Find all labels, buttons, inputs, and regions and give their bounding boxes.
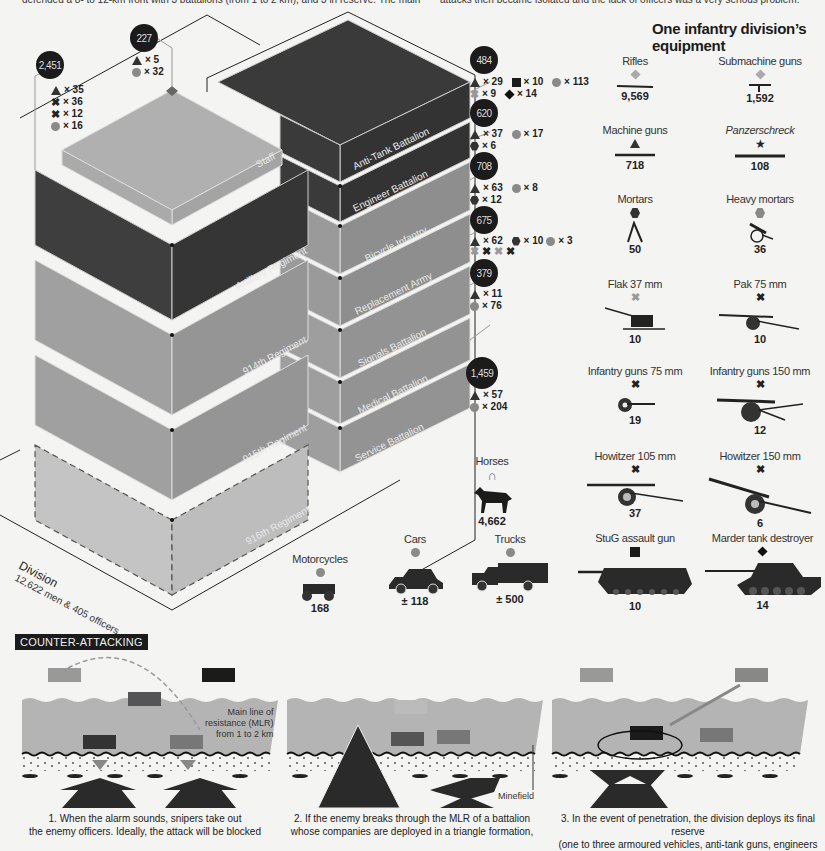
circle-icon xyxy=(51,122,60,131)
diamond-icon xyxy=(630,69,640,79)
caption-step-1: 1. When the alarm sounds, snipers take o… xyxy=(10,812,280,838)
equipment-cars: Cars ± 118 xyxy=(375,533,455,607)
circle-icon xyxy=(132,68,141,77)
triangle-icon xyxy=(51,86,61,95)
equipment-rifles: Rifles 9,569 xyxy=(580,55,690,102)
cross-icon: ✖ xyxy=(470,90,479,99)
equipment-howitzer-105: Howitzer 105 mm ✖ 37 xyxy=(580,450,690,519)
heavy-mortar-icon xyxy=(746,221,774,243)
caption-step-2: 2. If the enemy breaks through the MLR o… xyxy=(277,812,547,838)
motorcycle-icon xyxy=(297,580,343,602)
triangle-icon xyxy=(630,139,640,148)
badge-medical: 1,459 xyxy=(466,357,498,389)
equipment-trucks: Trucks ± 500 xyxy=(465,533,555,605)
infantry-gun-75-icon xyxy=(613,392,657,414)
star-icon: ★ xyxy=(705,139,815,149)
panzerschreck-icon xyxy=(733,152,787,160)
equipment-pak-75: Pak 75 mm ✖ 10 xyxy=(705,278,815,345)
equipment-stug: StuG assault gun 10 xyxy=(570,532,700,612)
badge-engineer: 620 xyxy=(470,99,498,127)
horse-icon xyxy=(470,485,514,515)
equipment-infantry-guns-150: Infantry guns 150 mm ✖ 12 xyxy=(705,365,815,436)
flak-gun-icon xyxy=(603,305,667,333)
square-icon xyxy=(630,547,640,557)
marder-icon xyxy=(703,559,823,599)
triangle-icon xyxy=(132,56,142,65)
howitzer-105-icon xyxy=(585,477,685,507)
diamond-icon xyxy=(504,89,514,99)
hexagon-icon xyxy=(630,208,640,218)
equipment-heavy-mortars: Heavy mortars 36 xyxy=(705,193,815,255)
cross-icon: ✖ xyxy=(51,110,60,119)
infantry-gun-150-icon xyxy=(715,392,805,424)
equipment-panzerschreck: Panzerschreck ★ 108 xyxy=(705,124,815,172)
stug-icon xyxy=(576,560,694,600)
equipment-horses: Horses ∩ 4,662 xyxy=(457,455,527,527)
equipment-motorcycles: Motorcycles ± 118 168 xyxy=(285,553,355,614)
equipment-title: One infantry division’s equipment xyxy=(652,20,825,54)
submachine-gun-icon xyxy=(747,82,773,92)
mortar-icon xyxy=(625,221,645,243)
caption-step-3: 3. In the event of penetration, the divi… xyxy=(548,812,825,851)
machine-gun-icon xyxy=(613,151,657,159)
mlr-label: Main line of resistance (MLR) from 1 to … xyxy=(205,707,274,740)
equipment-machine-guns: Machine guns 718 xyxy=(580,124,690,171)
howitzer-150-icon xyxy=(707,477,813,517)
cross-icon: ✖ xyxy=(631,293,640,302)
legend-bicycle: × 63 × 8 × 12 xyxy=(470,182,538,206)
equipment-mortars: Mortars 50 xyxy=(580,193,690,255)
badge-anti-tank: 484 xyxy=(470,46,498,74)
cross-icon: ✖ xyxy=(51,98,60,107)
badge-signals: 379 xyxy=(470,259,498,287)
legend-anti-tank: × 29 × 10 × 113 ✖× 9 × 14 xyxy=(470,76,589,100)
legend-replacement: × 62 × 10× 3 ✖✖✖✖ xyxy=(470,235,572,256)
truck-icon xyxy=(470,561,550,593)
horseshoe-icon: ∩ xyxy=(457,470,527,482)
badge-artillery: 2,451 xyxy=(36,51,64,79)
legend-staff: × 5 × 32 xyxy=(132,54,164,78)
minefield-label: Minefield xyxy=(498,791,534,801)
hexagon-icon xyxy=(470,142,479,151)
square-icon xyxy=(512,78,521,87)
circle-icon xyxy=(316,568,325,577)
equipment-submachine-guns: Submachine guns 1,592 xyxy=(705,55,815,104)
equipment-howitzer-150: Howitzer 150 mm ✖ 6 xyxy=(705,450,815,529)
section-label-counter-attacking: COUNTER-ATTACKING xyxy=(15,634,148,650)
equipment-infantry-guns-75: Infantry guns 75 mm ✖ 19 xyxy=(580,365,690,426)
equipment-flak-37: Flak 37 mm ✖ 10 xyxy=(580,278,690,345)
circle-icon xyxy=(552,78,561,87)
triangle-icon xyxy=(470,78,480,87)
legend-signals: × 11 × 76 xyxy=(470,288,502,312)
pak-gun-icon xyxy=(717,305,803,333)
legend-medical: × 57 × 204 xyxy=(470,389,507,413)
badge-bicycle: 708 xyxy=(470,152,498,180)
rifle-icon xyxy=(615,82,655,90)
badge-replacement: 675 xyxy=(470,206,498,234)
division-strength: 12,622 men & 405 officers xyxy=(13,572,121,636)
badge-staff: 227 xyxy=(130,24,158,52)
legend-engineer: × 37 × 17 × 6 xyxy=(470,128,543,152)
diamond-icon xyxy=(757,546,767,556)
equipment-marder: Marder tank destroyer 14 xyxy=(700,532,825,611)
car-icon xyxy=(385,565,445,595)
legend-artillery: × 35 ✖× 36 ✖× 12 × 16 xyxy=(51,84,84,132)
